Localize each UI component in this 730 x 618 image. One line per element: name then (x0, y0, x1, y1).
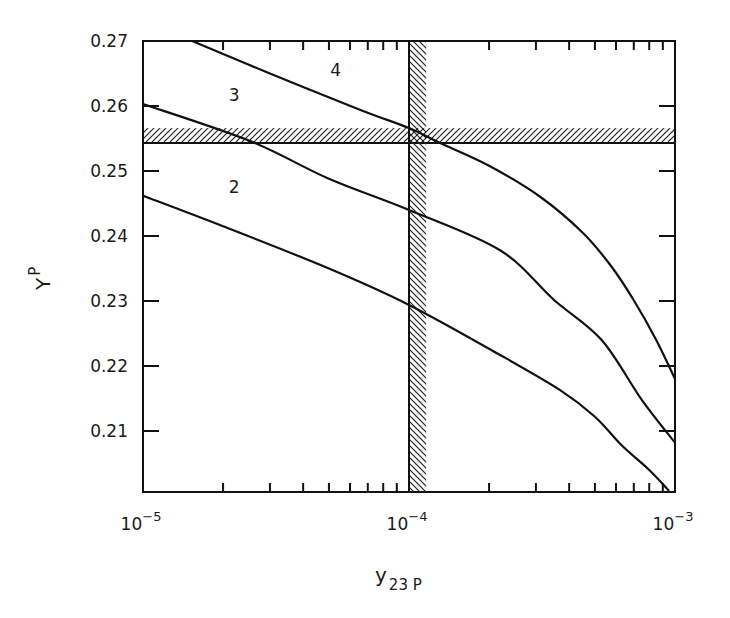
y-tick-label: 0.21 (90, 421, 128, 441)
x-tick-label: 10−5 (121, 509, 162, 534)
y-tick-label: 0.23 (90, 291, 128, 311)
y-axis-title: YP (26, 267, 55, 291)
x-tick-label: 10−3 (653, 509, 694, 534)
y-tick-label: 0.25 (90, 161, 128, 181)
curve-label-4: 4 (330, 60, 341, 80)
y-tick-label: 0.24 (90, 226, 128, 246)
x-axis-title: y23 P (375, 563, 422, 594)
svg-text:YP: YP (26, 267, 55, 291)
svg-text:y23 P: y23 P (375, 563, 422, 594)
chart: 0.270.260.250.240.230.220.21 10−510−410−… (0, 0, 730, 618)
x-tick-labels: 10−510−410−3 (121, 509, 694, 534)
y-tick-label: 0.27 (90, 31, 128, 51)
y-tick-label: 0.22 (90, 356, 128, 376)
y-tick-label: 0.26 (90, 96, 128, 116)
y-tick-labels: 0.270.260.250.240.230.220.21 (90, 31, 128, 441)
vertical-band (409, 41, 426, 492)
curve-4 (192, 41, 675, 379)
x-tick-label: 10−4 (387, 509, 428, 534)
curve-label-2: 2 (229, 177, 240, 197)
curve-label-3: 3 (229, 85, 240, 105)
uncertainty-bands (143, 41, 675, 492)
